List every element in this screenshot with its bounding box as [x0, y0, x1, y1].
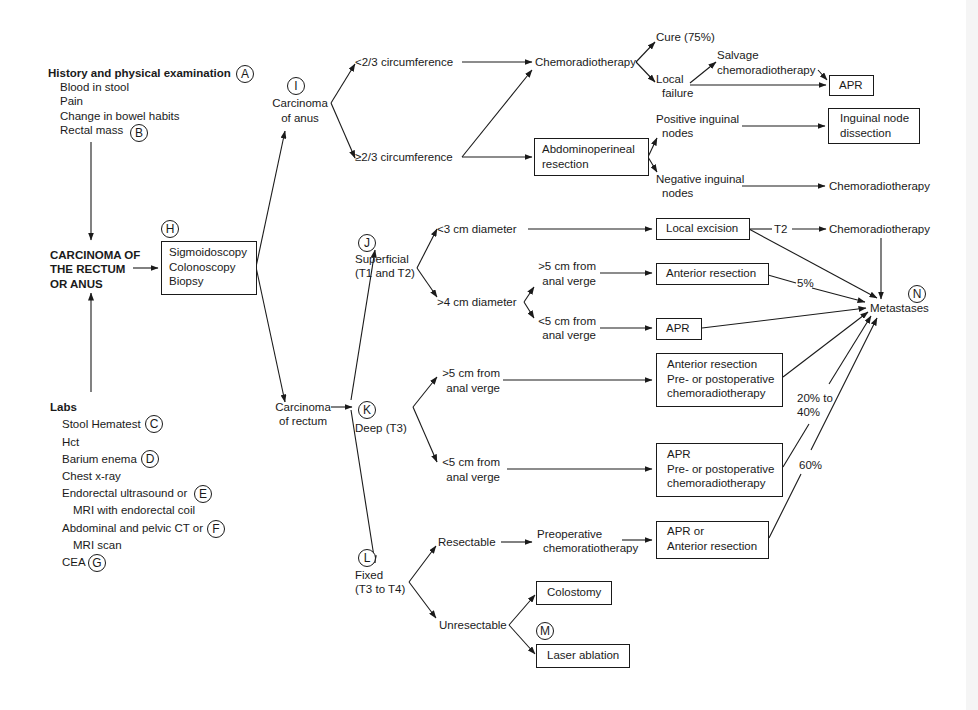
marker-f: F — [207, 520, 225, 538]
labs-title: Labs — [50, 400, 77, 415]
local-failure-label: failure — [662, 86, 693, 101]
node-dissection-box: Inguinal node dissection — [828, 108, 920, 144]
salvage-label: chemoradiotherapy — [717, 63, 815, 78]
deep-ar-line: Pre- or postoperative — [667, 372, 772, 387]
sup-chemoradiotherapy: Chemoradiotherapy — [829, 222, 930, 237]
preop-label: chemoratiotherapy — [543, 541, 638, 556]
marker-l: L — [358, 549, 376, 567]
flowchart-canvas: History and physical examination A Blood… — [0, 0, 978, 710]
lab-item: Abdominal and pelvic CT or — [62, 521, 203, 536]
workup-line: Sigmoidoscopy — [169, 245, 249, 260]
apr-resection-line: Abdominoperineal — [542, 142, 641, 157]
root-line: OR ANUS — [50, 277, 103, 292]
marker-j: J — [358, 234, 376, 252]
history-title: History and physical examination — [48, 66, 231, 81]
lt3-label: <3 cm diameter — [437, 222, 517, 237]
lab-item: Stool Hematest — [62, 417, 141, 432]
gt4-label: >4 cm diameter — [437, 295, 517, 310]
marker-k: K — [358, 401, 376, 419]
pct-5-label: 5% — [797, 276, 814, 291]
salvage-label: Salvage — [717, 48, 759, 63]
rectum-label: of rectum — [270, 414, 336, 429]
deep-apr-line: APR — [667, 447, 772, 462]
lab-item: CEA — [62, 555, 86, 570]
apr-or-ar-box: APR or Anterior resection — [656, 521, 769, 559]
cure-label: Cure (75%) — [656, 30, 715, 45]
history-item: Rectal mass — [60, 123, 123, 138]
lt-two-thirds: <2/3 circumference — [355, 55, 453, 70]
ge-two-thirds: ≥2/3 circumference — [355, 150, 453, 165]
root-line: CARCINOMA OF — [50, 248, 140, 263]
marker-e: E — [194, 485, 212, 503]
sup-apr-box: APR — [656, 318, 702, 340]
deep-gt5-label: anal verge — [424, 381, 500, 396]
apr-or-ar-line: Anterior resection — [667, 539, 758, 554]
superficial-label: Superficial — [355, 252, 409, 267]
neg-chemoradiotherapy: Chemoradiotherapy — [829, 179, 930, 194]
unresectable-label: Unresectable — [439, 618, 507, 633]
positive-nodes: Positive inguinal — [656, 112, 739, 127]
marker-i: I — [287, 77, 305, 95]
node-dissection-line: Inguinal node — [840, 111, 908, 126]
sup-lt5-label: anal verge — [520, 328, 596, 343]
local-failure-label: Local — [656, 72, 684, 87]
marker-h: H — [161, 220, 179, 238]
colostomy-box: Colostomy — [536, 581, 612, 605]
lab-item: MRI with endorectal coil — [73, 503, 195, 518]
apr-resection-box: Abdominoperineal resection — [534, 138, 649, 176]
node-dissection-line: dissection — [840, 126, 908, 141]
deep-lt5-label: anal verge — [424, 470, 500, 485]
deep-apr-line: chemoradiotherapy — [667, 476, 772, 491]
pct-20-40-label: 40% — [797, 405, 820, 420]
sup-gt5-label: >5 cm from — [520, 259, 596, 274]
negative-nodes: nodes — [662, 186, 693, 201]
deep-label: Deep (T3) — [355, 421, 407, 436]
t2-label: T2 — [774, 222, 787, 237]
history-item: Change in bowel habits — [60, 109, 180, 124]
marker-c: C — [145, 415, 163, 433]
apr-or-ar-line: APR or — [667, 524, 758, 539]
sup-gt5-label: anal verge — [520, 274, 596, 289]
anus-apr-box: APR — [829, 75, 874, 96]
pct-20-40-label: 20% to — [797, 391, 833, 406]
marker-m: M — [536, 622, 554, 640]
lab-item: Endorectal ultrasound or — [62, 486, 187, 501]
workup-box: Sigmoidoscopy Colonoscopy Biopsy — [161, 241, 257, 295]
lab-item: Hct — [62, 435, 79, 450]
workup-line: Colonoscopy — [169, 260, 249, 275]
laser-ablation-box: Laser ablation — [536, 644, 630, 668]
marker-a: A — [236, 65, 254, 83]
superficial-label: (T1 and T2) — [355, 266, 415, 281]
fixed-label: (T3 to T4) — [355, 582, 405, 597]
marker-b: B — [130, 124, 148, 142]
deep-ar-box: Anterior resection Pre- or postoperative… — [656, 353, 783, 407]
marker-g: G — [88, 554, 106, 572]
deep-apr-box: APR Pre- or postoperative chemoradiother… — [656, 443, 783, 497]
preop-label: Preoperative — [537, 527, 602, 542]
deep-ar-line: chemoradiotherapy — [667, 386, 772, 401]
lab-item: MRI scan — [73, 538, 122, 553]
lab-item: Chest x-ray — [62, 469, 121, 484]
apr-resection-line: resection — [542, 157, 641, 172]
anus-chemoradiotherapy: Chemoradiotherapy — [535, 55, 636, 70]
pct-60-label: 60% — [799, 458, 822, 473]
lab-item: Barium enema — [62, 452, 137, 467]
anus-label: Carcinoma — [268, 96, 332, 111]
sup-lt5-label: <5 cm from — [520, 314, 596, 329]
deep-gt5-label: >5 cm from — [424, 366, 500, 381]
deep-lt5-label: <5 cm from — [424, 455, 500, 470]
negative-nodes: Negative inguinal — [656, 172, 744, 187]
local-excision-box: Local excision — [656, 218, 750, 240]
history-item: Pain — [60, 94, 83, 109]
positive-nodes: nodes — [662, 126, 693, 141]
fixed-label: Fixed — [355, 568, 383, 583]
anus-label: of anus — [268, 111, 332, 126]
root-line: THE RECTUM — [50, 262, 125, 277]
deep-ar-line: Anterior resection — [667, 357, 772, 372]
marker-d: D — [141, 450, 159, 468]
resectable-label: Resectable — [438, 535, 496, 550]
connector-lines — [0, 0, 978, 710]
rectum-label: Carcinoma — [270, 400, 336, 415]
deep-apr-line: Pre- or postoperative — [667, 462, 772, 477]
workup-line: Biopsy — [169, 274, 249, 289]
